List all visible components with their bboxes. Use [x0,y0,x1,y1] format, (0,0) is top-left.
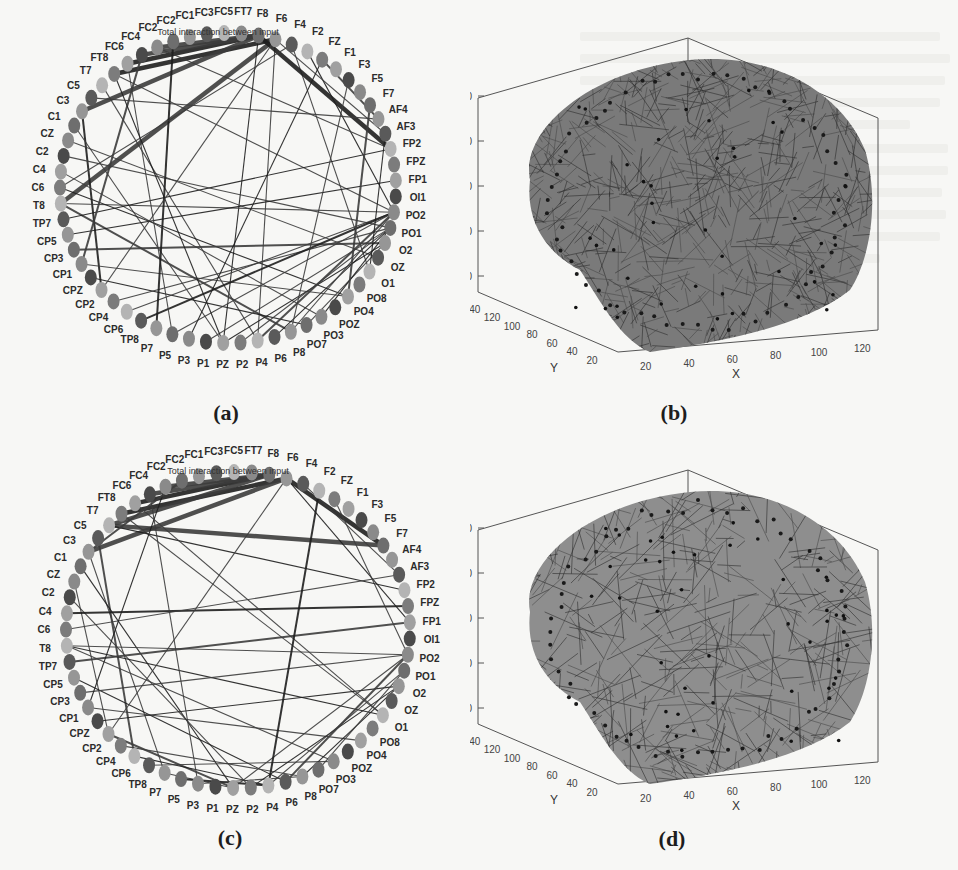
channel-node [343,501,355,517]
channel-node [377,707,389,723]
channel-node [54,180,66,196]
graph-title: Total interaction between input [157,27,279,37]
channel-label: PO1 [402,228,422,239]
x-tick: 60 [727,354,739,365]
channel-node [61,605,73,621]
channel-node [367,720,379,736]
channel-label: P8 [293,347,306,358]
y-axis-label: Y [550,361,558,375]
connection-edge [70,622,410,662]
channel-node [116,506,128,522]
channel-label: AF4 [402,544,421,555]
channel-node [404,631,416,647]
channel-label: F8 [257,8,269,19]
circular-graph-c: FT7F8F6F4F2FZF1F3F5F7AF4AF3FP2FPZFP1OI1P… [0,430,470,830]
channel-node [296,769,308,785]
channel-label: AF3 [397,121,416,132]
channel-node [388,157,400,173]
channel-label: POZ [352,763,373,774]
channel-node [364,97,376,113]
channel-label: T8 [33,200,45,211]
channel-labels: FT7F8F6F4F2FZF1F3F5F7AF4AF3FP2FPZFP1OI1P… [38,445,442,816]
channel-node [342,744,354,760]
y-tick: 20 [586,787,598,798]
channel-label: CP5 [37,236,57,247]
channel-label: F1 [357,487,369,498]
channel-label: F2 [324,466,336,477]
channel-node [55,164,67,180]
channel-node [102,726,114,742]
channel-label: FP2 [403,138,422,149]
caption-b: (b) [661,400,688,426]
channel-node [367,524,379,540]
channel-node [377,538,389,554]
channel-label: F4 [294,19,306,30]
channel-label: P4 [255,357,268,368]
channel-node [150,320,162,336]
channel-label: T8 [39,643,51,654]
channel-node [62,132,74,148]
y-tick: 60 [546,770,558,781]
channel-label: PO8 [367,293,387,304]
channel-label: C4 [39,606,52,617]
channel-label: TP8 [121,334,140,345]
channel-node [372,250,384,266]
channel-label: F7 [396,528,408,539]
z-tick: 80 [470,568,472,579]
connection-edge [67,606,408,613]
y-tick: 40 [566,778,578,789]
z-tick: 80 [470,136,472,147]
circular-graph-a: FT7F8F6F4F2FZF1F3F5F7AF4AF3FP2FPZFP1OI1P… [0,0,470,400]
y-tick: 100 [504,321,521,332]
channel-node [82,699,94,715]
y-tick: 140 [470,736,481,747]
channel-node [329,299,341,315]
y-tick: 20 [586,355,598,366]
channel-label: O2 [399,245,413,256]
channel-label: CP4 [96,756,116,767]
channel-label: C1 [48,111,61,122]
channel-label: FZ [328,36,340,47]
channel-node [61,638,73,654]
channel-node [354,84,366,100]
connection-edge [150,494,198,783]
channel-node [85,269,97,285]
channel-label: FC2 [157,15,176,26]
channel-label: F6 [276,13,288,24]
channel-node [129,495,141,511]
channel-node [92,530,104,546]
x-tick: 120 [854,343,871,354]
channel-node [96,282,108,298]
channel-label: C2 [36,146,49,157]
channel-label: C5 [74,520,87,531]
channel-label: T7 [80,65,92,76]
channel-label: TP7 [33,218,52,229]
channel-label: FZ [341,475,353,486]
y-axis-label: Y [550,793,558,807]
channel-label: PO4 [367,750,387,761]
channel-label: POZ [339,319,360,330]
channel-node [75,558,87,574]
channel-label: FPZ [406,156,425,167]
y-tick: 120 [484,312,501,323]
channel-label: C6 [38,624,51,635]
connection-edge [67,646,334,762]
channel-node [328,753,340,769]
channel-label: P6 [286,797,299,808]
channel-label: FC4 [129,470,148,481]
channel-label: FC6 [105,41,124,52]
channel-node [108,66,120,82]
channel-label: CZ [47,569,60,580]
channel-label: FP1 [409,174,428,185]
channel-label: P3 [178,355,191,366]
channel-node [103,517,115,533]
connection-edge [98,686,399,721]
channel-node [160,479,172,495]
channel-node [60,622,72,638]
z-tick: 100 [470,91,472,102]
caption-a: (a) [213,400,239,426]
channel-label: PO2 [406,210,426,221]
channel-node [200,334,212,350]
channel-node [398,582,410,598]
channel-node [393,678,405,694]
